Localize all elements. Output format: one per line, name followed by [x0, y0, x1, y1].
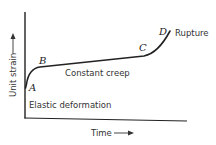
y-axis-arrow-icon: [11, 33, 16, 54]
rupture-label: Rupture: [175, 28, 209, 38]
constant-creep-label: Constant creep: [65, 68, 130, 78]
point-d-label: D: [158, 26, 167, 37]
creep-curve-diagram: A B C D Rupture Constant creep Elastic d…: [0, 0, 216, 145]
x-axis-label: Time: [90, 128, 112, 138]
point-a-label: A: [28, 82, 36, 93]
x-axis-arrow-icon: [114, 131, 134, 136]
elastic-deformation-label: Elastic deformation: [29, 100, 111, 110]
y-axis-label: Unit strain: [8, 53, 18, 97]
point-b-label: B: [38, 55, 46, 66]
creep-curve: [26, 31, 171, 88]
x-axis: [25, 118, 188, 121]
point-c-label: C: [139, 42, 147, 53]
